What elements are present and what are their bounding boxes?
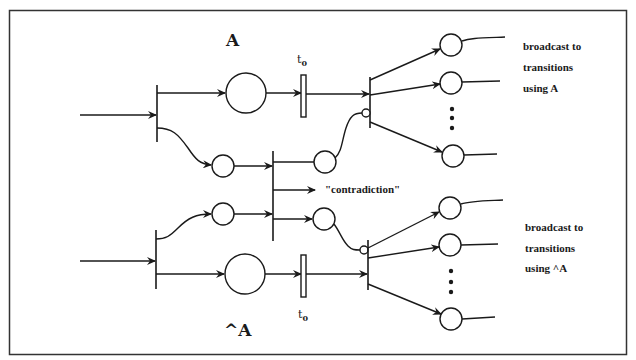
place-out-not-a-n bbox=[440, 308, 462, 330]
tail-out-a-n bbox=[464, 154, 497, 155]
place-not-a-guard bbox=[313, 208, 335, 230]
tail-out-a-2 bbox=[462, 81, 500, 82]
label-broadcast-not-a: broadcast to transitions using ^A bbox=[525, 221, 584, 274]
place-out-a-1 bbox=[440, 34, 462, 56]
label-place-not-a: ^A bbox=[224, 320, 252, 340]
place-not-a bbox=[225, 254, 265, 294]
svg-text:broadcast to: broadcast to bbox=[523, 40, 582, 52]
tail-out-not-a-1 bbox=[461, 200, 503, 204]
inhibitor-circle-not-a bbox=[360, 246, 368, 254]
place-out-a-n bbox=[442, 145, 464, 167]
place-not-a-copy bbox=[212, 203, 234, 225]
inhibitor-arc-not-a bbox=[334, 224, 360, 250]
place-out-not-a-2 bbox=[439, 234, 461, 256]
arc-broadcast-a-2 bbox=[370, 84, 440, 95]
svg-text:using A: using A bbox=[523, 82, 558, 94]
place-out-a-2 bbox=[440, 72, 462, 94]
place-out-not-a-1 bbox=[439, 197, 461, 219]
petri-net-diagram: A t0 "contradiction" ^A t0 broadcast to … bbox=[0, 0, 636, 360]
transition-t0-bottom bbox=[301, 255, 306, 297]
tail-out-a-1 bbox=[462, 37, 505, 41]
place-a-copy bbox=[212, 155, 234, 177]
arc-broadcast-a-n bbox=[370, 122, 442, 152]
arc-broadcast-a-1 bbox=[370, 49, 440, 80]
label-broadcast-a: broadcast to transitions using A bbox=[523, 40, 582, 94]
arc-broadcast-not-a-n bbox=[368, 284, 441, 314]
arc-to-place-a-copy bbox=[157, 128, 211, 165]
svg-text:using ^A: using ^A bbox=[525, 262, 567, 274]
svg-text:transitions: transitions bbox=[525, 242, 576, 254]
label-t0-top: t0 bbox=[297, 53, 307, 68]
label-contradiction: "contradiction" bbox=[325, 183, 400, 195]
label-place-a: A bbox=[225, 30, 240, 50]
tail-out-not-a-n bbox=[462, 317, 495, 319]
label-t0-bottom: t0 bbox=[298, 308, 308, 323]
ellipsis-dots-a bbox=[450, 107, 454, 130]
arc-broadcast-not-a-1 bbox=[368, 212, 439, 248]
svg-text:broadcast to: broadcast to bbox=[525, 221, 584, 233]
svg-text:transitions: transitions bbox=[523, 61, 574, 73]
inhibitor-circle-a bbox=[362, 109, 370, 117]
place-a bbox=[226, 73, 266, 113]
arc-to-place-not-a-copy bbox=[156, 214, 211, 239]
tail-out-not-a-2 bbox=[461, 244, 498, 245]
inhibitor-arc-a bbox=[335, 113, 362, 158]
ellipsis-dots-not-a bbox=[449, 269, 453, 294]
transition-t0-top bbox=[301, 75, 306, 117]
arc-broadcast-not-a-2 bbox=[368, 247, 439, 258]
place-a-guard bbox=[314, 151, 336, 173]
